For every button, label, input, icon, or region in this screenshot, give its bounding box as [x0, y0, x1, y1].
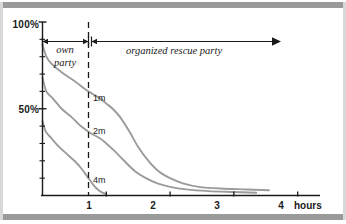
- x-tick-label-3: 3: [214, 200, 220, 211]
- left-frame-edge: [0, 2, 3, 220]
- organized-party-right-arrowhead: [272, 37, 281, 46]
- chart-figure: 100% 50% 1 2 3 4 hours 1m 2m 4m own part…: [0, 0, 346, 224]
- curve-label-2m: 2m: [93, 126, 106, 136]
- bottom-frame-bar: [0, 214, 346, 220]
- curve-series-group: [43, 45, 269, 195]
- top-frame-bar: [0, 2, 346, 8]
- organized-rescue-party-label: organized rescue party: [126, 45, 222, 56]
- curve-1m: [43, 45, 269, 191]
- curve-label-1m: 1m: [93, 93, 106, 103]
- curve-label-4m: 4m: [93, 175, 106, 185]
- x-tick-label-2: 2: [150, 200, 156, 211]
- y-tick-label-100: 100%: [13, 19, 39, 30]
- curve-2m: [43, 78, 257, 193]
- organized-party-left-arrowhead: [92, 39, 98, 44]
- own-party-right-arrowhead: [83, 39, 89, 44]
- own-party-label-line2: party: [53, 57, 77, 68]
- x-tick-label-1: 1: [86, 200, 92, 211]
- own-party-label-line1: own: [56, 44, 74, 55]
- survival-probability-plot: 100% 50% 1 2 3 4 hours 1m 2m 4m own part…: [0, 0, 346, 224]
- x-tick-label-4: 4: [278, 200, 284, 211]
- y-tick-label-50: 50%: [18, 104, 39, 115]
- x-axis-units-label: hours: [294, 200, 322, 211]
